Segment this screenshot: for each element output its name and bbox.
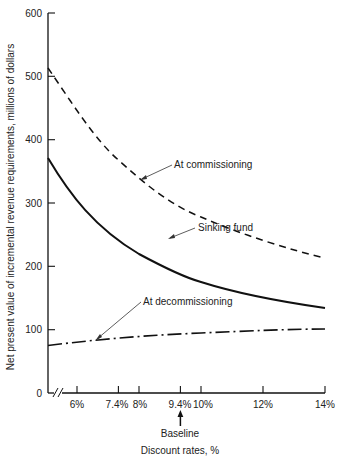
arrowhead-icon — [168, 234, 175, 239]
x-tick-label: 9.4% — [169, 399, 192, 410]
y-tick-label: 600 — [25, 8, 42, 19]
chart-canvas: 600 500 400 300 200 100 0 6% 7.4% 8% 9.4… — [0, 0, 343, 459]
baseline-arrow-icon — [178, 410, 184, 426]
x-tick-label: 12% — [253, 399, 273, 410]
annotation-decommissioning: At decommissioning — [95, 296, 232, 341]
x-tick-label: 6% — [70, 399, 85, 410]
series-at-decommissioning — [48, 329, 325, 346]
label-at-decommissioning: At decommissioning — [143, 296, 232, 307]
y-tick-labels: 600 500 400 300 200 100 0 — [25, 8, 42, 399]
label-sinking-fund: Sinking fund — [198, 222, 253, 233]
annotation-commissioning: At commissioning — [140, 159, 252, 180]
y-tick-label: 200 — [25, 261, 42, 272]
arrow-line — [142, 165, 172, 179]
y-tick-label: 0 — [36, 388, 42, 399]
annotation-sinking-fund: Sinking fund — [168, 222, 253, 239]
y-axis-title: Net present value of incremental revenue… — [5, 44, 16, 370]
x-tick-label: 7.4% — [106, 399, 129, 410]
x-tick-label: 14% — [315, 399, 335, 410]
label-at-commissioning: At commissioning — [174, 159, 252, 170]
x-tick-label: 8% — [133, 399, 148, 410]
x-tick-labels: 6% 7.4% 8% 9.4% 10% 12% 14% — [70, 399, 335, 410]
baseline-label: Baseline — [161, 428, 200, 439]
y-tick-label: 400 — [25, 134, 42, 145]
y-ticks — [48, 13, 55, 330]
x-ticks — [77, 386, 325, 393]
x-tick-label: 10% — [193, 399, 213, 410]
axis-break-icon — [53, 388, 63, 397]
arrowhead-icon — [140, 175, 147, 180]
y-tick-label: 300 — [25, 198, 42, 209]
x-axis-title: Discount rates, % — [141, 445, 219, 456]
y-tick-label: 100 — [25, 324, 42, 335]
y-tick-label: 500 — [25, 71, 42, 82]
arrow-line — [97, 302, 141, 339]
series-sinking-fund — [48, 158, 325, 308]
